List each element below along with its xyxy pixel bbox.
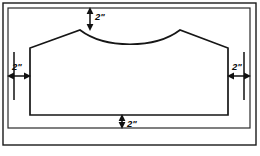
dimension-bottom-label: 2" — [126, 118, 137, 129]
dimension-left-label: 2" — [11, 61, 22, 72]
technical-drawing-canvas: 2" 2" 2" 2" — [0, 0, 260, 156]
dimension-right-label: 2" — [231, 61, 242, 72]
dimension-top: 2" — [87, 7, 106, 31]
dimension-right: 2" — [227, 52, 251, 100]
dimension-top-arrowhead-down — [87, 24, 94, 31]
dimension-left: 2" — [7, 52, 31, 100]
drawing-svg: 2" 2" 2" 2" — [0, 0, 260, 156]
workpiece-outline — [30, 30, 228, 115]
dimension-top-label: 2" — [94, 11, 105, 22]
dimension-bottom: 2" — [119, 114, 138, 129]
